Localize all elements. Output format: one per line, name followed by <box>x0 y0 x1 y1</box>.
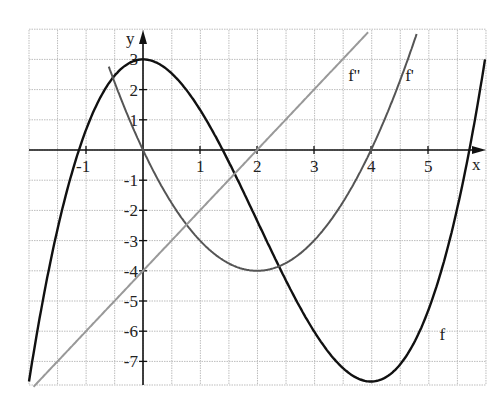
grid <box>29 29 486 385</box>
x-tick-label: 2 <box>253 157 262 176</box>
curve-label: f' <box>405 66 414 85</box>
curve-fprime <box>109 34 417 271</box>
y-tick-label: -7 <box>124 352 139 371</box>
x-tick-label: 4 <box>367 157 376 176</box>
y-axis-arrow-icon <box>139 30 147 44</box>
x-tick-label: 3 <box>310 157 319 176</box>
x-tick-label: 1 <box>196 157 205 176</box>
y-tick-label: -1 <box>124 171 138 190</box>
x-tick-label: -1 <box>76 157 90 176</box>
y-tick-label: -3 <box>124 232 138 251</box>
function-graph: -112345321-1-2-3-4-5-6-7xy f''f'f <box>0 0 501 415</box>
y-axis-label: y <box>126 29 135 48</box>
x-axis-label: x <box>472 155 481 174</box>
y-tick-label: 2 <box>130 81 139 100</box>
x-tick-label: 5 <box>424 157 433 176</box>
y-tick-label: -6 <box>124 322 138 341</box>
tick-labels: -112345321-1-2-3-4-5-6-7xy <box>76 29 481 371</box>
curve-label: f <box>439 325 445 344</box>
x-axis-arrow-icon <box>472 146 486 154</box>
y-tick-label: -5 <box>124 292 138 311</box>
curve-label: f'' <box>348 66 360 85</box>
y-tick-label: -2 <box>124 201 138 220</box>
